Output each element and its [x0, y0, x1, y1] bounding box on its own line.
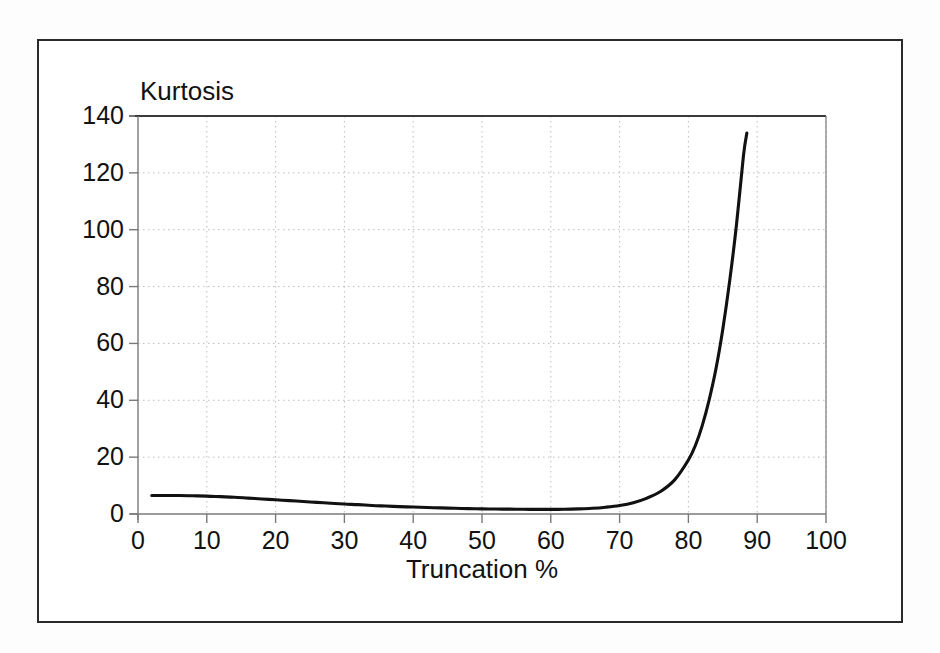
- axis-layer: [129, 116, 826, 523]
- y-tick-label: 60: [96, 330, 124, 355]
- kurtosis-curve: [152, 133, 747, 509]
- y-tick-label: 40: [96, 387, 124, 412]
- y-tick-label: 120: [82, 160, 124, 185]
- y-tick-label: 0: [110, 501, 124, 526]
- x-axis-title: Truncation %: [138, 556, 826, 582]
- curve-layer: [152, 133, 747, 509]
- x-tick-label: 100: [786, 528, 866, 553]
- y-tick-label: 20: [96, 444, 124, 469]
- grid-layer: [138, 116, 826, 514]
- y-tick-label: 80: [96, 274, 124, 299]
- figure-root: Kurtosis Truncation % 020406080100120140…: [0, 0, 940, 653]
- y-tick-label: 140: [82, 103, 124, 128]
- y-tick-label: 100: [82, 217, 124, 242]
- y-axis-title: Kurtosis: [140, 78, 234, 104]
